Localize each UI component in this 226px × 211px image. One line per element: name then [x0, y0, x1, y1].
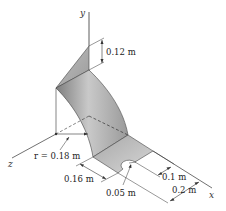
- dimension-label-0.05m: 0.05 m: [106, 188, 136, 198]
- diagram-canvas: y z x 0.12 m r = 0.18 m: [0, 0, 226, 211]
- dimension-radius: [55, 133, 88, 151]
- dimension-label-0.1m: 0.1 m: [162, 172, 186, 182]
- z-axis-label: z: [7, 159, 13, 169]
- dimension-label-0.12m: 0.12 m: [106, 47, 136, 57]
- dimension-hole-radius: [123, 162, 136, 185]
- dimension-label-radius: r = 0.18 m: [34, 151, 80, 161]
- x-axis-label: x: [209, 190, 214, 200]
- dimension-label-0.16m: 0.16 m: [64, 174, 94, 184]
- dimension-label-0.2m: 0.2 m: [172, 185, 196, 195]
- dimension-triangle-height: [89, 38, 104, 70]
- y-axis-label: y: [79, 8, 86, 18]
